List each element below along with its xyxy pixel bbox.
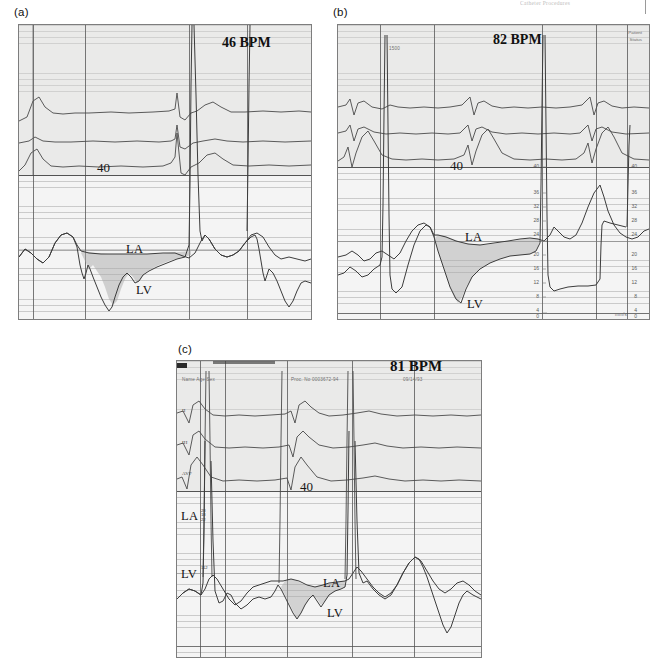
panel-b-outer-tick-12: 12: [625, 279, 637, 285]
panel-b-side-caption-line2: Status: [597, 37, 642, 44]
panel-b-waveforms: [338, 25, 649, 319]
panel-b-outer-tick-32: 32: [625, 203, 637, 209]
panel-b-bpm-readout: 82 BPM: [493, 32, 542, 48]
panel-c-lv-trace-3: [355, 441, 481, 633]
panel-b-tick-8: 8: [527, 293, 539, 299]
panel-b-outer-tick-20: 20: [625, 251, 637, 257]
panel-a-strip-chart: [18, 24, 312, 320]
panel-b-scale-marker-40: 40: [450, 158, 463, 174]
panel-c-header-fields: Name Age Sex: [182, 377, 215, 382]
panel-a-scale-marker-40: 40: [97, 160, 110, 176]
panel-b-outer-tick-36: 36: [625, 189, 637, 195]
panel-c-label-la: LA: [323, 576, 340, 591]
panel-c-lead-avf: AVF: [182, 471, 192, 476]
panel-b-label-lv: LV: [467, 297, 483, 312]
panel-a-lv-upstroke-3: [247, 25, 250, 231]
panel-b-tag: (b): [333, 6, 348, 18]
panel-c-channel-label-lv: LV: [181, 567, 197, 582]
panel-b-tick-28: 28: [527, 217, 539, 223]
panel-c-lv-upstroke-2: [279, 371, 282, 583]
panel-b-lv-trace-2: [545, 35, 626, 291]
panel-c-scale-marker-40: 40: [300, 479, 313, 495]
panel-c-bpm-readout: 81 BPM: [390, 358, 442, 375]
panel-c-label-lv: LV: [327, 606, 343, 621]
panel-c-proc-number: Proc. No 0003672-94: [291, 377, 338, 382]
panel-b: (b): [325, 0, 655, 330]
panel-b-tick-40: 40: [527, 163, 539, 169]
panel-c-la-subvalues: 28 18 22: [201, 509, 206, 522]
panel-b-outer-tick-0: 0: [625, 313, 637, 319]
panel-a-ecg-trace-2: [19, 125, 311, 149]
panel-b-label-la: LA: [465, 230, 482, 245]
panel-a-bpm-readout: 46 BPM: [222, 35, 271, 51]
panel-a-ecg-trace-3: [19, 133, 311, 175]
panel-a: (a): [0, 0, 320, 330]
panel-a-waveforms: [19, 25, 311, 319]
panel-b-side-caption-line1: Patient: [597, 30, 642, 37]
panel-a-tag: (a): [14, 6, 29, 18]
panel-b-outer-tick-40: 40: [625, 163, 637, 169]
panel-a-ecg-trace-1: [19, 93, 311, 121]
panel-c-ecg-trace-ii: [177, 401, 481, 423]
panel-c-la-sub-bot: 22: [201, 518, 206, 522]
panel-b-tick-0: 0: [527, 313, 539, 319]
panel-b-side-caption: Patient Status: [597, 30, 642, 43]
panel-b-outer-tick-16: 16: [625, 265, 637, 271]
panel-b-tick-32: 32: [527, 203, 539, 209]
panel-b-tick-16: 16: [527, 265, 539, 271]
panel-b-outer-tick-24: 24: [625, 231, 637, 237]
panel-b-tick-12: 12: [527, 279, 539, 285]
panel-b-lv-upstroke-right: [627, 125, 630, 227]
panel-c-lead-iii: III: [182, 440, 188, 445]
panel-c-lead-ii: II: [182, 408, 186, 413]
panel-b-tick-20: 20: [527, 251, 539, 257]
panel-c-ecg-trace-iii: [177, 431, 481, 457]
panel-b-outer-tick-28: 28: [625, 217, 637, 223]
panel-b-outer-tick-8: 8: [625, 293, 637, 299]
panel-a-label-lv: LV: [136, 283, 152, 298]
panel-c-date: 09/14/93: [403, 377, 422, 382]
panel-c-ecg-trace-avf: [177, 457, 481, 490]
panel-b-ecg-trace-3: [338, 127, 649, 167]
panel-c: (c): [160, 340, 500, 666]
panel-b-tick-24: 24: [527, 231, 539, 237]
panel-b-strip-chart: [337, 24, 650, 320]
panel-c-tag: (c): [178, 343, 192, 355]
panel-b-lv-trace: [338, 35, 385, 277]
panel-b-gradient-shading: [434, 235, 540, 303]
panel-b-tick-36: 36: [527, 189, 539, 195]
panel-c-lv-subvalue: 112: [201, 566, 208, 570]
panel-c-channel-label-la: LA: [181, 509, 198, 524]
panel-a-label-la: LA: [126, 242, 143, 257]
panel-b-corner-note: 1500: [389, 46, 400, 51]
